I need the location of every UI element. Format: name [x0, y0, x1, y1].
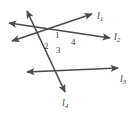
angle-label-2: 2: [44, 42, 49, 51]
line-label-l4: l4: [62, 98, 68, 108]
line-l1: [12, 14, 92, 41]
line-label-l1-subscript: 1: [100, 15, 104, 23]
line-label-l1: l1: [97, 11, 103, 21]
line-l3: [27, 68, 118, 72]
line-label-l2-subscript: 2: [117, 36, 121, 44]
geometry-figure: l1 l2 l3 l4 1 2 3 4: [0, 0, 137, 115]
angle-label-4: 4: [71, 38, 76, 47]
lines-diagram: [0, 0, 137, 115]
angle-label-1: 1: [55, 31, 60, 40]
line-label-l2: l2: [114, 32, 120, 42]
line-label-l3-subscript: 3: [123, 78, 127, 86]
angle-label-3: 3: [56, 46, 61, 55]
line-label-l4-subscript: 4: [65, 102, 69, 110]
line-label-l3: l3: [120, 74, 126, 84]
